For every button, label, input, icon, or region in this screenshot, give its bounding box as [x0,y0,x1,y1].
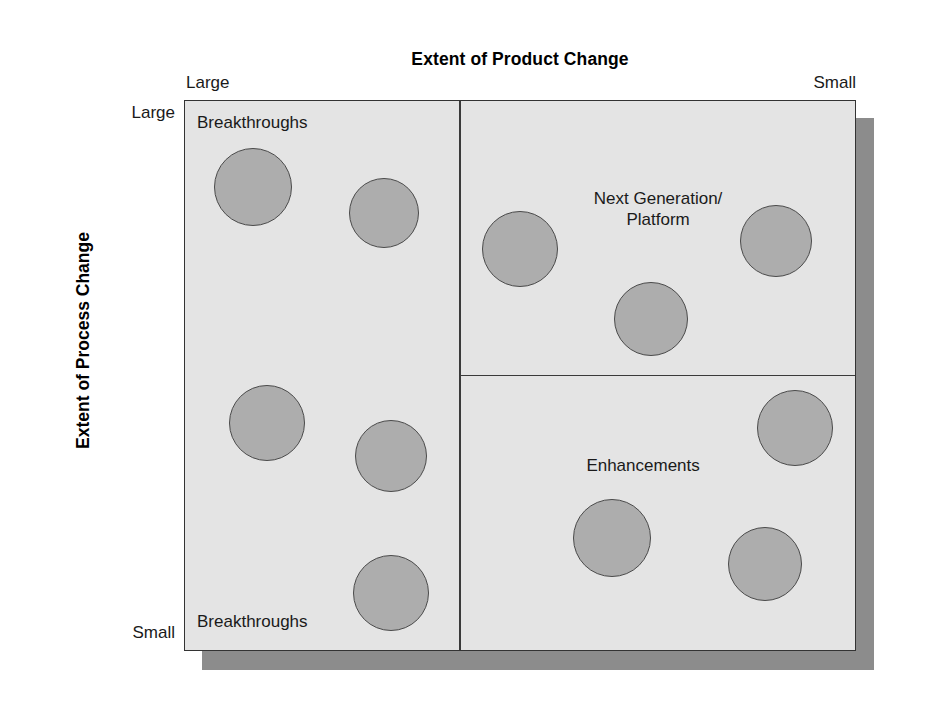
data-bubble [229,385,305,461]
figure-canvas: Extent of Product Change Large Small Ext… [0,0,952,713]
y-axis-title: Extent of Process Change [73,221,94,461]
y-axis-top-label: Large [55,103,175,123]
x-axis-title: Extent of Product Change [184,49,856,70]
data-bubble [355,420,427,492]
x-axis-left-label: Large [186,73,229,93]
quadrant-label-enhancements: Enhancements [499,456,787,477]
data-bubble [349,178,419,248]
matrix-horizontal-divider [459,375,855,377]
data-bubble [728,527,802,601]
data-bubble [740,205,812,277]
data-bubble [482,211,558,287]
x-axis-right-label: Small [813,73,856,93]
y-axis-bottom-label: Small [55,623,175,643]
data-bubble [214,148,292,226]
quadrant-matrix: Breakthroughs Next Generation/ Platform … [184,100,856,651]
data-bubble [353,555,429,631]
data-bubble [573,499,651,577]
data-bubble [614,282,688,356]
data-bubble [757,390,833,466]
quadrant-label-breakthroughs-top: Breakthroughs [197,113,427,134]
